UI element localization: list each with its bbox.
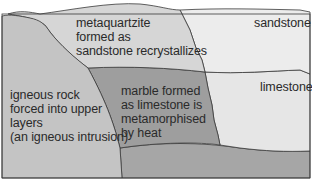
sandstone-label: sandstone	[254, 16, 311, 30]
limestone-label: limestone	[260, 80, 312, 94]
igneous-rock-label: igneous rock forced into upper layers (a…	[10, 88, 128, 144]
metaquartzite-label: metaquartzite formed as sandstone recrys…	[76, 16, 207, 58]
marble-label: marble formed as limestone is metamorphi…	[121, 84, 206, 140]
rock-cross-section-diagram: metaquartzite formed as sandstone recrys…	[0, 0, 312, 185]
